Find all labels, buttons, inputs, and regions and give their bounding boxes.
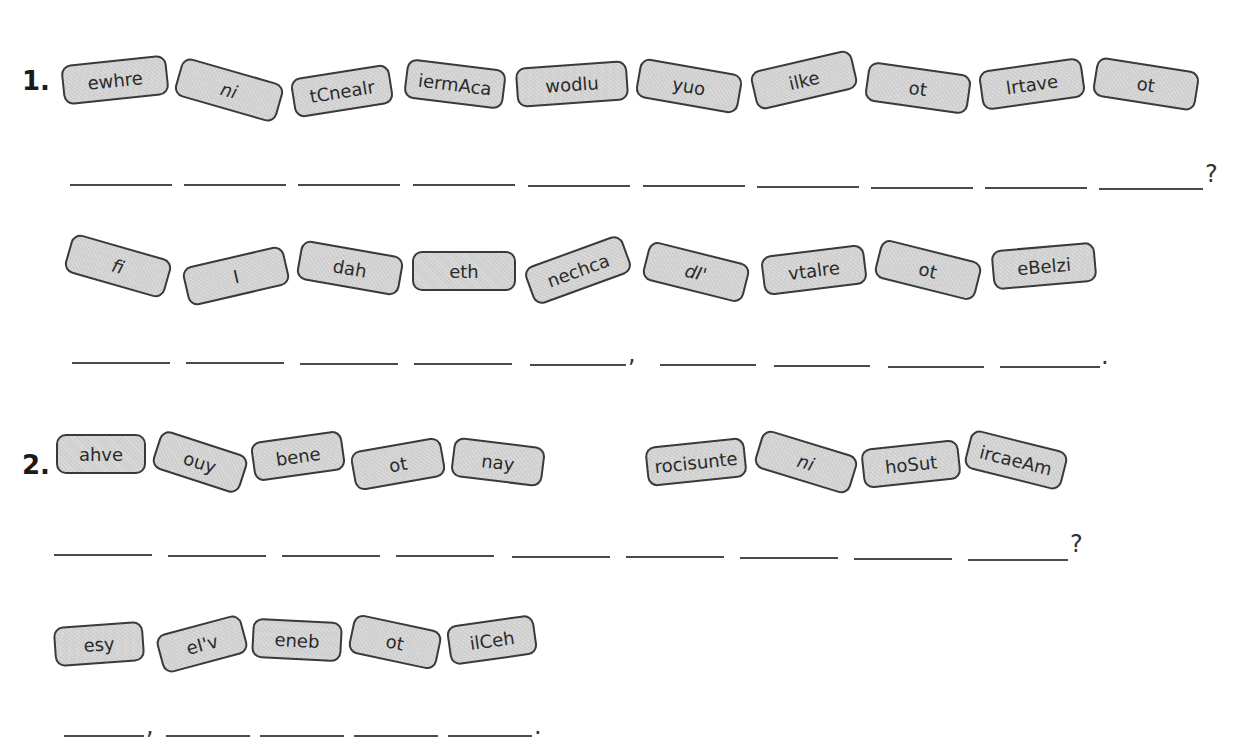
answer-blank[interactable] <box>413 184 515 186</box>
answer-blank[interactable] <box>888 366 984 368</box>
word-tile[interactable]: eneb <box>251 618 343 663</box>
word-tile[interactable]: iermAca <box>403 58 507 110</box>
word-tile[interactable]: ewhre <box>60 55 170 106</box>
answer-blank[interactable] <box>54 554 152 556</box>
word-tile[interactable]: hoSut <box>860 439 962 489</box>
word-tile[interactable]: ilCeh <box>446 614 539 666</box>
answer-blank[interactable] <box>282 555 380 557</box>
answer-blank[interactable] <box>298 184 400 186</box>
word-tile[interactable]: esy <box>53 621 146 667</box>
word-tile[interactable]: tCnealr <box>289 63 394 118</box>
answer-blank[interactable] <box>740 557 838 559</box>
answer-blank[interactable] <box>643 185 745 187</box>
answer-blank[interactable] <box>166 735 250 737</box>
comma: , <box>146 712 154 740</box>
word-tile[interactable]: lrtave <box>978 57 1087 111</box>
word-tile[interactable]: eBelzi <box>990 242 1097 291</box>
word-tile[interactable]: eI'v <box>154 613 249 674</box>
word-tile[interactable]: dah <box>295 239 404 296</box>
answer-blank[interactable] <box>260 735 344 737</box>
word-tile[interactable]: nechca <box>522 233 633 306</box>
word-tile[interactable]: ni <box>752 428 859 495</box>
word-tile[interactable]: yuo <box>634 57 743 114</box>
answer-blank[interactable] <box>530 364 626 366</box>
answer-blank[interactable] <box>774 365 870 367</box>
answer-blank[interactable] <box>871 187 973 189</box>
word-tile[interactable]: rocisunte <box>644 437 748 487</box>
word-tile[interactable]: ahve <box>56 434 146 474</box>
answer-blank[interactable] <box>854 558 952 560</box>
question-mark: ? <box>1205 160 1218 188</box>
answer-blank[interactable] <box>1099 188 1203 190</box>
answer-blank[interactable] <box>757 186 859 188</box>
answer-blank[interactable] <box>354 735 438 737</box>
answer-blank[interactable] <box>72 362 170 364</box>
answer-blank[interactable] <box>184 184 286 186</box>
word-tile[interactable]: ot <box>873 238 984 302</box>
answer-blank[interactable] <box>300 363 398 365</box>
word-tile[interactable]: ouy <box>150 429 250 495</box>
question-number: 2. <box>22 450 50 480</box>
word-tile[interactable]: ot <box>349 436 447 491</box>
answer-blank[interactable] <box>414 363 512 365</box>
word-tile[interactable]: ni <box>173 56 286 124</box>
answer-blank[interactable] <box>512 556 610 558</box>
word-tile[interactable]: ot <box>864 61 973 115</box>
answer-blank[interactable] <box>528 185 630 187</box>
answer-blank[interactable] <box>660 364 756 366</box>
word-tile[interactable]: ot <box>347 613 443 671</box>
answer-blank[interactable] <box>448 735 532 737</box>
word-tile[interactable]: ot <box>1092 56 1201 112</box>
answer-blank[interactable] <box>64 735 144 737</box>
word-tile[interactable]: nay <box>450 437 546 488</box>
word-tile[interactable]: dI' <box>641 240 752 304</box>
period: . <box>534 712 542 740</box>
word-tile[interactable]: eth <box>412 251 516 291</box>
answer-blank[interactable] <box>70 184 172 186</box>
word-tile[interactable]: ilke <box>749 49 859 111</box>
word-tile[interactable]: I <box>181 245 291 307</box>
word-tile[interactable]: vtalre <box>760 244 868 296</box>
answer-blank[interactable] <box>985 187 1087 189</box>
period: . <box>1101 342 1109 370</box>
word-tile[interactable]: bene <box>250 430 347 482</box>
answer-blank[interactable] <box>168 555 266 557</box>
question-number: 1. <box>22 66 50 96</box>
word-tile[interactable]: fi <box>63 232 174 299</box>
answer-blank[interactable] <box>186 362 284 364</box>
answer-blank[interactable] <box>968 559 1068 561</box>
answer-blank[interactable] <box>626 556 724 558</box>
word-tile[interactable]: wodlu <box>515 60 630 108</box>
answer-blank[interactable] <box>1000 366 1100 368</box>
question-mark: ? <box>1070 530 1083 558</box>
word-tile[interactable]: ircaeAm <box>963 428 1070 491</box>
answer-blank[interactable] <box>396 555 494 557</box>
comma: , <box>628 340 636 368</box>
